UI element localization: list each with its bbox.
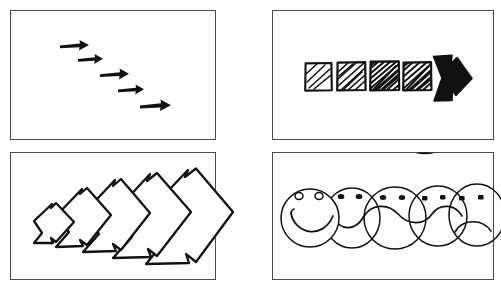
face-slight-frown [409,186,467,246]
face-neutral [364,187,426,249]
mouth-transition-line [333,206,462,227]
face-happy [281,189,339,247]
sketch-sheet: five-descending-right-arrows four-hatche… [0,0,501,291]
ink-smudge [416,152,434,154]
faces-art [0,0,501,291]
